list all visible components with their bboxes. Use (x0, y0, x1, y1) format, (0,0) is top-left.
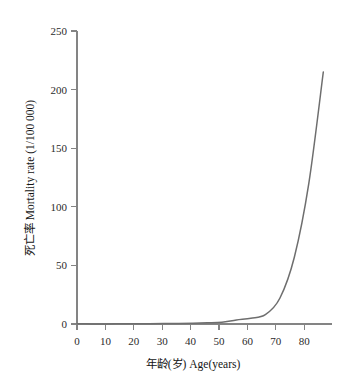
x-axis-title: 年龄(岁) Age(years) (146, 357, 241, 371)
y-axis-title: 死亡率 Mortality rate (1/100 000) (23, 100, 37, 256)
x-tick-label: 10 (100, 335, 112, 347)
y-tick-label: 250 (51, 25, 68, 37)
y-tick-label: 150 (51, 142, 68, 154)
x-tick-label: 70 (270, 335, 282, 347)
y-tick-label: 100 (51, 201, 68, 213)
x-tick-label: 60 (242, 335, 254, 347)
y-axis-ticks (71, 31, 77, 324)
x-tick-label: 0 (74, 335, 80, 347)
x-tick-label: 30 (157, 335, 169, 347)
mortality-rate-chart-figure: 250 200 150 100 50 0 0 10 20 30 40 50 (0, 0, 346, 386)
x-axis-ticks (77, 324, 304, 330)
x-tick-label: 40 (185, 335, 197, 347)
chart-canvas: 250 200 150 100 50 0 0 10 20 30 40 50 (0, 0, 346, 386)
y-axis-tick-labels: 250 200 150 100 50 0 (51, 25, 68, 330)
x-tick-label: 20 (128, 335, 140, 347)
x-tick-label: 50 (214, 335, 226, 347)
mortality-rate-line (77, 72, 323, 324)
x-tick-label: 80 (299, 335, 311, 347)
y-tick-label: 200 (51, 84, 68, 96)
y-tick-label: 0 (62, 318, 68, 330)
x-axis-tick-labels: 0 10 20 30 40 50 60 70 80 (74, 335, 310, 347)
y-tick-label: 50 (56, 259, 68, 271)
